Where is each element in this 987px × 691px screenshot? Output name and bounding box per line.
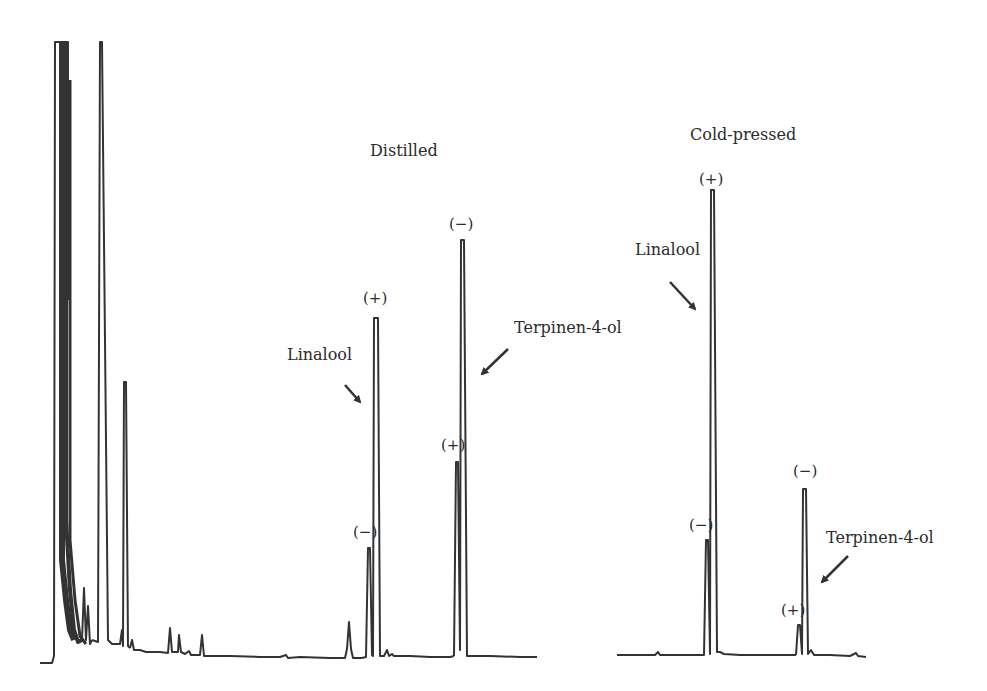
distilled-terpinen-label: Terpinen-4-ol [514, 320, 622, 336]
cold-pressed-terpinen-plus: (+) [781, 603, 805, 618]
cold-pressed-trace [617, 190, 866, 657]
distilled-title: Distilled [370, 143, 438, 159]
arrow-distilled-linalool [345, 385, 360, 402]
cold-pressed-linalool-minus: (−) [689, 518, 713, 533]
arrow-cold-terpinen [822, 556, 848, 582]
distilled-terpinen-minus: (−) [449, 217, 473, 232]
cold-pressed-linalool-plus: (+) [699, 172, 723, 187]
distilled-linalool-label: Linalool [287, 347, 352, 363]
cold-pressed-title: Cold-pressed [690, 127, 796, 143]
arrow-cold-linalool [670, 282, 695, 309]
cold-pressed-terpinen-minus: (−) [793, 464, 817, 479]
distilled-terpinen-plus: (+) [441, 438, 465, 453]
cold-pressed-linalool-label: Linalool [635, 242, 700, 258]
chromatogram-traces [0, 0, 987, 691]
distilled-linalool-minus: (−) [353, 525, 377, 540]
distilled-linalool-plus: (+) [363, 291, 387, 306]
chromatogram-figure: Distilled Linalool Terpinen-4-ol (+) (−)… [0, 0, 987, 691]
arrow-distilled-terpinen [482, 349, 508, 374]
cold-pressed-terpinen-label: Terpinen-4-ol [826, 530, 934, 546]
